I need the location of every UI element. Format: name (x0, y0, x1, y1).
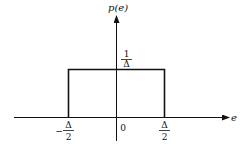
svg-text:1: 1 (124, 49, 130, 59)
origin-label: 0 (120, 123, 126, 133)
svg-text:2: 2 (162, 132, 168, 142)
height-label: 1 Δ (121, 49, 132, 69)
left-bound-label: − Δ 2 (55, 120, 74, 142)
x-axis-label: e (231, 112, 237, 123)
svg-text:Δ: Δ (65, 120, 72, 130)
right-bound-label: Δ 2 (159, 120, 170, 142)
svg-text:2: 2 (66, 132, 72, 142)
svg-text:Δ: Δ (161, 120, 168, 130)
uniform-pdf-diagram: p(e) e 1 Δ 0 − Δ 2 Δ 2 (0, 0, 245, 152)
svg-text:Δ: Δ (123, 59, 130, 69)
svg-text:−: − (55, 126, 63, 136)
y-axis-label: p(e) (108, 2, 128, 13)
